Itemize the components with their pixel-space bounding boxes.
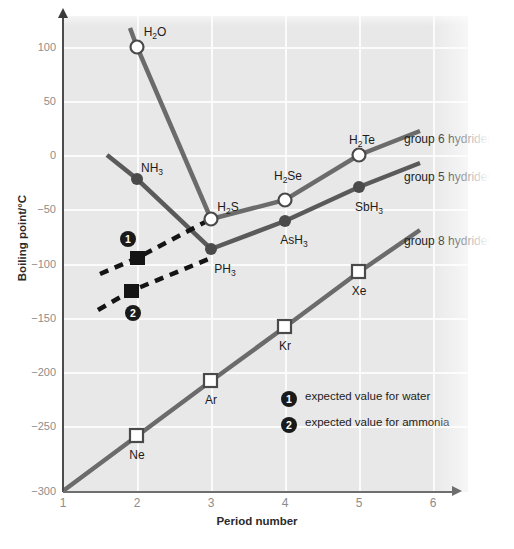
edge-fade-right — [430, 0, 514, 549]
legend-label-2: expected value for ammonia — [305, 416, 449, 428]
y-tick-label: −300 — [10, 485, 56, 497]
legend-badge-1: 1 — [281, 391, 297, 407]
y-tick-label: −200 — [10, 366, 56, 378]
point-label-ph3: PH3 — [214, 262, 235, 278]
marker-ph3 — [205, 243, 217, 255]
y-tick-label: −150 — [10, 312, 56, 324]
x-tick-label: 2 — [134, 496, 141, 510]
x-tick-label: 1 — [60, 496, 67, 510]
y-tick-label: 50 — [10, 95, 56, 107]
point-label-ar: Ar — [205, 393, 217, 407]
y-axis-title: Boiling point/°C — [16, 178, 28, 298]
marker-ash3 — [279, 215, 291, 227]
marker-h2te — [353, 149, 366, 162]
point-label-ne: Ne — [129, 448, 144, 462]
point-label-nh3: NH3 — [141, 161, 163, 177]
legend-label-1: expected value for water — [305, 390, 430, 402]
x-tick-label: 4 — [282, 496, 289, 510]
point-label-h2o: H2O — [144, 25, 167, 41]
point-label-h2te: H2Te — [349, 133, 375, 149]
point-label-h2s: H2S — [217, 200, 238, 216]
point-label-xe: Xe — [352, 284, 367, 298]
x-tick-label: 6 — [430, 496, 437, 510]
y-tick-label: 100 — [10, 41, 56, 53]
marker-xe — [352, 265, 365, 278]
marker-ar — [204, 374, 217, 387]
point-label-sbh3: SbH3 — [355, 200, 383, 216]
point-label-kr: Kr — [279, 339, 291, 353]
boiling-point-chart: H2O H2S H2Se H2Te NH3 PH3 AsH3 SbH3 Ne A… — [0, 0, 514, 549]
marker-h2o — [131, 41, 144, 54]
marker-h2s — [205, 213, 218, 226]
x-axis-line — [63, 491, 456, 493]
marker-sbh3 — [353, 181, 365, 193]
marker-ne — [130, 429, 143, 442]
x-tick-label: 3 — [208, 496, 215, 510]
y-tick-label: −250 — [10, 420, 56, 432]
y-axis-line — [62, 16, 64, 492]
dashed-line-expected-water — [100, 219, 211, 274]
marker-expected-water — [130, 251, 145, 265]
y-tick-label: 0 — [10, 149, 56, 161]
x-axis-title: Period number — [0, 515, 514, 527]
y-tick-labels: 100 50 0 −50 −100 −150 −200 −250 −300 — [4, 0, 56, 549]
y-axis-arrow-icon — [58, 8, 68, 18]
annotation-badge-1: 1 — [120, 231, 136, 247]
edge-fade-top — [0, 0, 514, 26]
series-line-group-6 — [130, 28, 420, 219]
x-tick-label: 5 — [356, 496, 363, 510]
legend-badge-2: 2 — [281, 417, 297, 433]
marker-h2se — [279, 194, 292, 207]
point-label-ash3: AsH3 — [280, 233, 307, 249]
marker-expected-ammonia — [124, 284, 139, 298]
x-axis-arrow-icon — [452, 486, 462, 496]
point-label-h2se: H2Se — [274, 169, 302, 185]
annotation-badge-2: 2 — [125, 305, 141, 321]
marker-kr — [278, 320, 291, 333]
